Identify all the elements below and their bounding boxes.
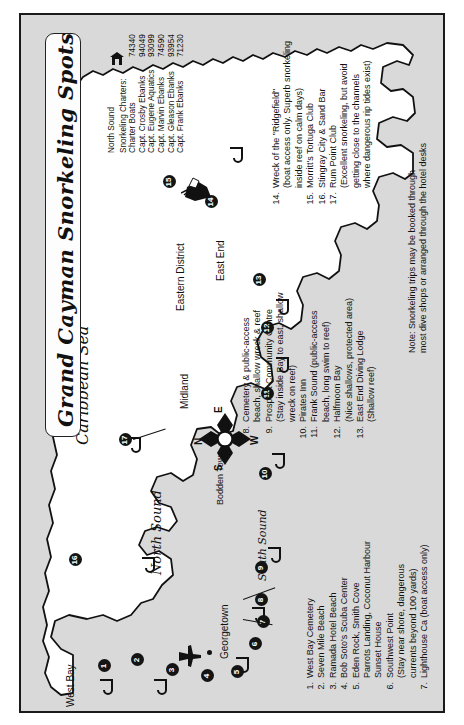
legend-text: Prospect Community Centre (Stay inside B… <box>264 292 298 422</box>
fish-hook-icon <box>227 145 249 167</box>
charter-row: Capt. Gleason Ebanks 93954 <box>167 13 177 153</box>
map-frame: Caribbean Sea North Sound South Sound We… <box>19 13 445 713</box>
legend-number: 8. <box>241 422 264 445</box>
legend-number: 10. <box>298 422 309 445</box>
legend-text: Lighthouse Ca (boat access only) <box>419 544 430 678</box>
legend-number: 17. <box>328 188 374 211</box>
map-marker-5[interactable]: 5 <box>231 665 244 678</box>
charter-name: Capt. Frank Ebanks <box>176 57 186 153</box>
map-marker-10[interactable]: 10 <box>259 467 272 480</box>
legend-text: Halfmoon Bay (Nice shallows, protected a… <box>332 298 355 422</box>
charter-phone: 94049 <box>138 17 148 57</box>
charter-name: Capt. Eugene Aquatics <box>147 57 157 153</box>
map-marker-1[interactable]: 1 <box>98 659 111 672</box>
charter-row: Capt. Frank Ebanks 71230 <box>176 13 186 153</box>
legend-number: 12. <box>332 422 355 445</box>
legend-item: 15.Morritt's Tortuga Club <box>305 13 316 211</box>
map-marker-3[interactable]: 3 <box>166 663 179 676</box>
legend-text: West Bay Cemetery <box>305 598 316 678</box>
charter-phone: 74340 <box>128 17 138 57</box>
legend-item: 4.Bob Soto's Scuba Center <box>339 401 350 701</box>
fish-hook-icon <box>139 555 161 577</box>
compass-label-s: S <box>213 464 224 471</box>
legend-item: 8.Cemetery & public-access beach, shallo… <box>241 165 264 445</box>
fish-hook-icon <box>269 451 291 473</box>
legend-text: Eden Rock, Smith Cove Parrots Landing, C… <box>351 541 385 678</box>
map-marker-2[interactable]: 2 <box>131 653 144 666</box>
map-marker-16[interactable]: 16 <box>69 553 82 566</box>
legend-item: 17.Rum Point Club (Excellent snorkeling,… <box>328 13 374 211</box>
map-marker-15[interactable]: 15 <box>163 175 176 188</box>
compass-label-n: N <box>193 438 204 445</box>
fish-hook-icon <box>97 677 119 699</box>
legend-number: 13. <box>355 422 378 445</box>
legend-column-left: 1.West Bay Cemetery 2.Seven Mile Beach 3… <box>305 401 430 701</box>
note-text: Note: Snorkeling trips may be booked thr… <box>407 103 430 353</box>
airplane-icon <box>177 643 203 667</box>
map-page: Caribbean Sea North Sound South Sound We… <box>0 0 464 725</box>
legend-number: 15. <box>305 188 316 211</box>
legend-item: 5.Eden Rock, Smith Cove Parrots Landing,… <box>351 401 385 701</box>
charter-phone: 93099 <box>147 17 157 57</box>
legend-number: 5. <box>351 678 385 701</box>
label-georgetown: Georgetown <box>219 605 230 659</box>
map-marker-6[interactable]: 6 <box>249 637 262 650</box>
charter-phone: 93954 <box>167 17 177 57</box>
charter-row: Capt. Crosby Ebanks 94049 <box>138 13 148 153</box>
legend-text: Pirates Inn <box>298 379 309 422</box>
legend-number: 2. <box>316 678 327 701</box>
legend-text: Rum Point Club (Excellent snorkeling, bu… <box>328 60 374 188</box>
map-marker-4[interactable]: 4 <box>201 669 214 682</box>
label-west-bay: West Bay <box>65 664 76 707</box>
legend-text: Southwest Point (Stay near shore, danger… <box>385 564 419 678</box>
snorkeling-charters-panel: North Sound Snorkeling Charters: Charter… <box>107 13 186 153</box>
legend-item: 6.Southwest Point (Stay near shore, dang… <box>385 401 419 701</box>
legend-text: Ramada Hotel Beach <box>328 592 339 678</box>
compass-label-e: E <box>213 406 224 413</box>
legend-number: 14. <box>271 188 305 211</box>
legend-item: 14.Wreck of the "Ridgefield" (boat acces… <box>271 13 305 211</box>
label-eastern-district: Eastern District <box>175 243 186 311</box>
legend-text: Cemetery & public-access beach, shallow … <box>241 310 264 422</box>
legend-number: 3. <box>328 678 339 701</box>
legend-text: East End Diving Lodge (Shallow reef) <box>355 330 378 422</box>
map-marker-17[interactable]: 17 <box>119 433 132 446</box>
charters-area-label: North Sound <box>107 13 117 153</box>
georgetown-city-dot <box>207 650 212 655</box>
page-title: Grand Cayman Snorkeling Spots <box>51 35 81 427</box>
legend-number: 7. <box>419 678 430 701</box>
charters-heading: Snorkeling Charters: <box>119 13 129 153</box>
label-midland: Midland <box>179 374 190 409</box>
legend-text: Stingray City & Sand Bar <box>317 88 328 188</box>
label-east-end: East End <box>215 240 226 281</box>
map-marker-9[interactable]: 9 <box>255 561 268 574</box>
charter-name: Capt. Crosby Ebanks <box>138 57 148 153</box>
legend-text: Bob Soto's Scuba Center <box>339 577 350 678</box>
legend-text: Seven Mile Beach <box>316 605 327 678</box>
legend-number: 11. <box>309 422 332 445</box>
legend-column-right: 14.Wreck of the "Ridgefield" (boat acces… <box>271 13 374 211</box>
charter-name: Capt. Marvin Ebanks <box>157 57 167 153</box>
charter-name: Capt. Gleason Ebanks <box>167 57 177 153</box>
legend-number: 1. <box>305 678 316 701</box>
legend-item: 1.West Bay Cemetery <box>305 401 316 701</box>
legend-item: 3.Ramada Hotel Beach <box>328 401 339 701</box>
legend-number: 9. <box>264 422 298 445</box>
legend-number: 4. <box>339 678 350 701</box>
charter-name: Charter Boats <box>128 57 138 153</box>
map-marker-14[interactable]: 14 <box>205 195 218 208</box>
legend-item: 16.Stingray City & Sand Bar <box>317 13 328 211</box>
fish-hook-icon <box>265 545 287 567</box>
fish-hook-icon <box>151 677 173 699</box>
charter-row: Capt. Marvin Ebanks 74590 <box>157 13 167 153</box>
charter-phone: 71230 <box>176 17 186 57</box>
legend-text: Frank Sound (public-access beach, long s… <box>309 310 332 422</box>
legend-text: Morritt's Tortuga Club <box>305 103 316 188</box>
charter-phone: 74590 <box>157 17 167 57</box>
legend-number: 16. <box>317 188 328 211</box>
legend-note: Note: Snorkeling trips may be booked thr… <box>407 103 430 353</box>
charter-row: Charter Boats 74340 <box>128 13 138 153</box>
legend-text: Wreck of the "Ridgefield" (boat access o… <box>271 41 305 188</box>
legend-number: 6. <box>385 678 419 701</box>
charter-row: Capt. Eugene Aquatics 93099 <box>147 13 157 153</box>
